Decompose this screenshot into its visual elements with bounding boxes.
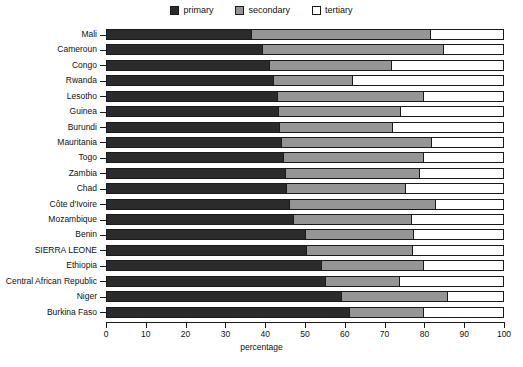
bar-segment-primary bbox=[107, 246, 306, 255]
bar-segment-tertiary bbox=[424, 153, 503, 162]
bar-row bbox=[106, 199, 504, 210]
legend-item-primary: primary bbox=[170, 6, 213, 15]
bar-segment-tertiary bbox=[412, 215, 503, 224]
chart-legend: primarysecondarytertiary bbox=[0, 6, 523, 15]
bar-segment-tertiary bbox=[436, 200, 503, 209]
bar-segment-primary bbox=[107, 230, 305, 239]
y-axis-label: Côte d'Ivoire bbox=[0, 199, 97, 210]
bar-row bbox=[106, 122, 504, 133]
bar-segment-primary bbox=[107, 107, 278, 116]
bar-segment-secondary bbox=[305, 230, 414, 239]
x-axis-tick-label: 30 bbox=[210, 329, 240, 339]
bar-row bbox=[106, 229, 504, 240]
bar-segment-tertiary bbox=[414, 230, 503, 239]
x-axis-tick bbox=[106, 323, 107, 328]
y-axis-label: Burundi bbox=[0, 122, 97, 133]
bar-segment-secondary bbox=[269, 61, 392, 70]
bar-row bbox=[106, 29, 504, 40]
bar-row bbox=[106, 137, 504, 148]
tertiary-swatch-icon bbox=[312, 6, 321, 15]
bar-segment-primary bbox=[107, 61, 269, 70]
bar-segment-tertiary bbox=[424, 308, 503, 317]
bar-segment-primary bbox=[107, 184, 286, 193]
bar-segment-primary bbox=[107, 292, 341, 301]
x-axis-tick bbox=[345, 323, 346, 328]
bar-segment-primary bbox=[107, 215, 293, 224]
x-axis-tick bbox=[504, 323, 505, 328]
bar-segment-tertiary bbox=[400, 277, 503, 286]
bar-row bbox=[106, 260, 504, 271]
bar-segment-primary bbox=[107, 169, 285, 178]
x-axis-title: percentage bbox=[0, 342, 523, 352]
x-axis-tick-label: 80 bbox=[409, 329, 439, 339]
bar-segment-primary bbox=[107, 138, 281, 147]
bar-segment-tertiary bbox=[392, 61, 503, 70]
bar-segment-primary bbox=[107, 277, 325, 286]
bar-segment-secondary bbox=[306, 246, 413, 255]
legend-item-secondary: secondary bbox=[235, 6, 290, 15]
bar-segment-secondary bbox=[262, 45, 443, 54]
bar-segment-tertiary bbox=[432, 138, 503, 147]
bar-segment-secondary bbox=[251, 30, 430, 39]
bar-segment-primary bbox=[107, 153, 283, 162]
legend-item-tertiary: tertiary bbox=[312, 6, 353, 15]
bar-row bbox=[106, 44, 504, 55]
bar-segment-secondary bbox=[283, 153, 424, 162]
legend-label: primary bbox=[183, 6, 213, 15]
bar-segment-tertiary bbox=[393, 123, 503, 132]
primary-swatch-icon bbox=[170, 6, 179, 15]
x-axis-tick bbox=[424, 323, 425, 328]
stacked-bar-chart: primarysecondarytertiary MaliCamerounCon… bbox=[0, 0, 523, 367]
bar-segment-tertiary bbox=[353, 76, 503, 85]
plot-area bbox=[106, 29, 504, 322]
bar-segment-secondary bbox=[279, 123, 393, 132]
bar-row bbox=[106, 106, 504, 117]
bar-segment-secondary bbox=[289, 200, 436, 209]
bar-row bbox=[106, 60, 504, 71]
bar-segment-secondary bbox=[349, 308, 424, 317]
x-axis-tick-label: 20 bbox=[171, 329, 201, 339]
bar-segment-tertiary bbox=[401, 107, 503, 116]
bar-row bbox=[106, 245, 504, 256]
x-axis-tick bbox=[305, 323, 306, 328]
bar-segment-tertiary bbox=[424, 261, 503, 270]
y-axis-label: Mauritania bbox=[0, 137, 97, 148]
x-axis-tick-label: 40 bbox=[250, 329, 280, 339]
x-axis-tick-label: 100 bbox=[489, 329, 519, 339]
bar-segment-primary bbox=[107, 308, 349, 317]
bar-segment-tertiary bbox=[420, 169, 503, 178]
y-axis-label: Zambia bbox=[0, 168, 97, 179]
bar-segment-primary bbox=[107, 76, 273, 85]
x-axis-tick-label: 0 bbox=[91, 329, 121, 339]
y-axis-label: Cameroun bbox=[0, 44, 97, 55]
legend-label: secondary bbox=[248, 6, 290, 15]
bar-segment-tertiary bbox=[406, 184, 503, 193]
bar-segment-primary bbox=[107, 45, 262, 54]
bar-segment-tertiary bbox=[448, 292, 503, 301]
bar-segment-secondary bbox=[277, 92, 424, 101]
bar-segment-primary bbox=[107, 261, 321, 270]
bar-segment-primary bbox=[107, 200, 289, 209]
bar-row bbox=[106, 168, 504, 179]
bar-segment-secondary bbox=[293, 215, 412, 224]
bar-row bbox=[106, 276, 504, 287]
bar-segment-secondary bbox=[281, 138, 431, 147]
y-axis-label: Lesotho bbox=[0, 91, 97, 102]
bar-row bbox=[106, 75, 504, 86]
x-axis-tick bbox=[464, 323, 465, 328]
bar-segment-tertiary bbox=[431, 30, 503, 39]
bar-segment-tertiary bbox=[444, 45, 503, 54]
y-axis-label: Mozambique bbox=[0, 214, 97, 225]
bar-segment-primary bbox=[107, 92, 277, 101]
y-axis-label: Niger bbox=[0, 291, 97, 302]
bar-segment-secondary bbox=[286, 184, 406, 193]
y-axis-label: Rwanda bbox=[0, 75, 97, 86]
x-axis-tick-label: 70 bbox=[370, 329, 400, 339]
bar-row bbox=[106, 91, 504, 102]
bar-segment-secondary bbox=[278, 107, 401, 116]
bar-segment-secondary bbox=[285, 169, 420, 178]
y-axis-label: Guinea bbox=[0, 106, 97, 117]
bar-segment-primary bbox=[107, 123, 279, 132]
y-axis-label: Benin bbox=[0, 229, 97, 240]
bar-segment-primary bbox=[107, 30, 251, 39]
